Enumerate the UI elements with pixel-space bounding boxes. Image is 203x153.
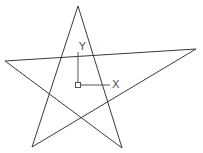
ucs-x-label: X [112, 78, 120, 91]
ucs-origin-square [76, 83, 81, 88]
drawing-svg[interactable]: Y X [0, 0, 203, 153]
drawing-canvas[interactable]: Y X [0, 0, 203, 153]
ucs-icon: Y X [76, 40, 121, 91]
ucs-y-label: Y [78, 40, 86, 53]
star-polygon[interactable] [5, 6, 196, 148]
